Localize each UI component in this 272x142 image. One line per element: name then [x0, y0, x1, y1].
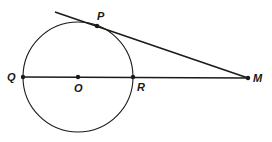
- label-q: Q: [7, 71, 16, 83]
- label-m: M: [253, 72, 263, 84]
- label-r: R: [137, 81, 145, 93]
- label-p: P: [97, 10, 105, 22]
- point-p: [95, 24, 99, 28]
- point-q: [21, 75, 25, 79]
- secant-line-qm: [23, 77, 248, 78]
- point-o: [76, 75, 80, 79]
- point-r: [131, 75, 135, 79]
- label-o: O: [74, 82, 83, 94]
- point-m: [246, 76, 250, 80]
- geometry-diagram: P Q O R M: [0, 0, 272, 142]
- tangent-line-pm: [55, 12, 248, 78]
